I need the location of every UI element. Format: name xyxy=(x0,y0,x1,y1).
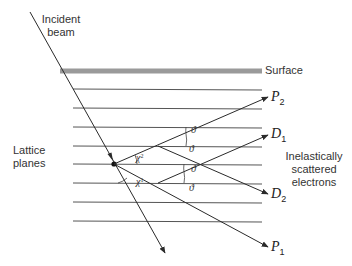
chi1-sup: 1 xyxy=(140,177,143,183)
p2-letter: P xyxy=(271,89,280,104)
p1-sub: 1 xyxy=(280,247,285,257)
beam-label-p1: P1 xyxy=(271,240,285,259)
incident-beam-label-line1: Incident xyxy=(38,13,84,26)
inelastic-label-line3: electrons xyxy=(282,176,346,189)
chi2-sup: 2 xyxy=(140,153,143,159)
incident-beam xyxy=(30,12,165,253)
d2-sub: 2 xyxy=(281,194,286,204)
angle-theta-2: ϑ xyxy=(189,143,194,154)
d1-letter: D xyxy=(271,126,281,141)
incident-beam-arrow-icon xyxy=(108,153,114,162)
angle-chi1: χ1 xyxy=(136,176,143,187)
lattice-planes xyxy=(73,89,262,222)
beam-d2 xyxy=(158,146,268,194)
angle-chi2: χ2 xyxy=(136,152,143,163)
beam-label-d2: D2 xyxy=(271,187,286,206)
diffraction-diagram xyxy=(0,0,352,266)
d1-sub: 1 xyxy=(281,134,286,144)
p2-sub: 2 xyxy=(280,97,285,107)
beam-label-p2: P2 xyxy=(271,90,285,109)
beam-d1 xyxy=(158,135,268,183)
inelastic-label: Inelastically scattered electrons xyxy=(282,150,346,189)
d2-letter: D xyxy=(271,186,281,201)
angle-theta-4: ϑ xyxy=(189,182,194,193)
inelastic-label-line2: scattered xyxy=(282,163,346,176)
lattice-planes-label: Lattice planes xyxy=(13,144,45,170)
surface-bar xyxy=(60,69,262,74)
angle-theta-1: ϑ xyxy=(191,124,196,135)
angle-theta-3: ϑ xyxy=(191,163,196,174)
inelastic-label-line1: Inelastically xyxy=(282,150,346,163)
incident-beam-label-line2: beam xyxy=(38,26,84,39)
lattice-label-line1: Lattice xyxy=(13,144,45,157)
p1-letter: P xyxy=(271,239,280,254)
surface-label: Surface xyxy=(265,64,303,77)
beam-label-d1: D1 xyxy=(271,127,286,146)
lattice-label-line2: planes xyxy=(13,157,45,170)
incident-beam-label: Incident beam xyxy=(38,13,84,39)
